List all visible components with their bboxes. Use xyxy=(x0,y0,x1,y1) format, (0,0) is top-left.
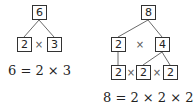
multiply-sign: × xyxy=(135,38,145,51)
factor-box-2: 2 xyxy=(17,37,32,52)
equation-6: 6 = 2 × 3 xyxy=(8,63,71,79)
factor-box-2: 2 xyxy=(163,65,178,80)
factor-box-4: 4 xyxy=(155,37,170,52)
equation-8: 8 = 2 × 2 × 2 xyxy=(103,90,194,106)
factor-box-2: 2 xyxy=(111,65,126,80)
multiply-sign: × xyxy=(34,38,44,51)
factor-box-2: 2 xyxy=(111,37,126,52)
multiply-sign: × xyxy=(152,66,162,79)
multiply-sign: × xyxy=(126,66,136,79)
factor-box-root-6: 6 xyxy=(32,5,47,20)
factor-box-3: 3 xyxy=(47,37,62,52)
factor-box-2: 2 xyxy=(136,65,151,80)
factor-box-root-8: 8 xyxy=(141,5,156,20)
